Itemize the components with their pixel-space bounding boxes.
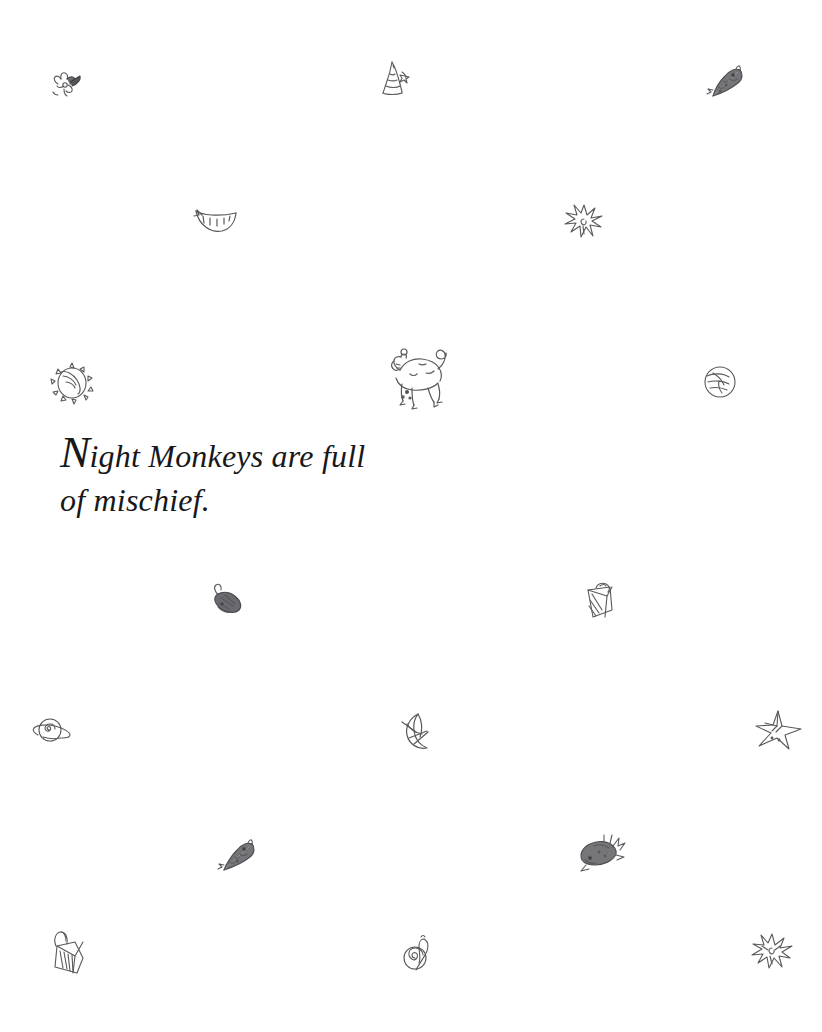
fish-doodle-1: [700, 62, 748, 106]
planet-doodle: [700, 362, 740, 402]
star-doodle: [752, 708, 804, 754]
bucket-doodle: [578, 576, 624, 624]
monkey-doodle: [374, 334, 460, 414]
snail-doodle: [400, 932, 440, 976]
caption-drop-cap: N: [60, 427, 90, 477]
fish-doodle-3: [574, 832, 626, 878]
book-page: Night Monkeys are full of mischief.: [0, 0, 822, 1032]
saturn-doodle: [30, 708, 78, 748]
caption-line-1-rest: ight Monkeys are full: [90, 438, 366, 474]
caption-line-1: Night Monkeys are full: [60, 432, 620, 478]
sun-eye-doodle: [48, 358, 96, 408]
starburst-doodle-2: [750, 932, 794, 976]
fish-doodle-2: [212, 836, 260, 878]
page-caption: Night Monkeys are full of mischief.: [60, 432, 620, 522]
bag-doodle: [44, 928, 94, 976]
crescent-moon-doodle: [396, 708, 446, 756]
caption-line-2: of mischief.: [60, 478, 620, 522]
critter-doodle: [205, 580, 249, 622]
starburst-doodle-1: [562, 202, 606, 246]
wizard-hat-doodle: [374, 56, 420, 104]
smile-doodle: [192, 205, 240, 241]
flower-doodle: [44, 62, 90, 108]
